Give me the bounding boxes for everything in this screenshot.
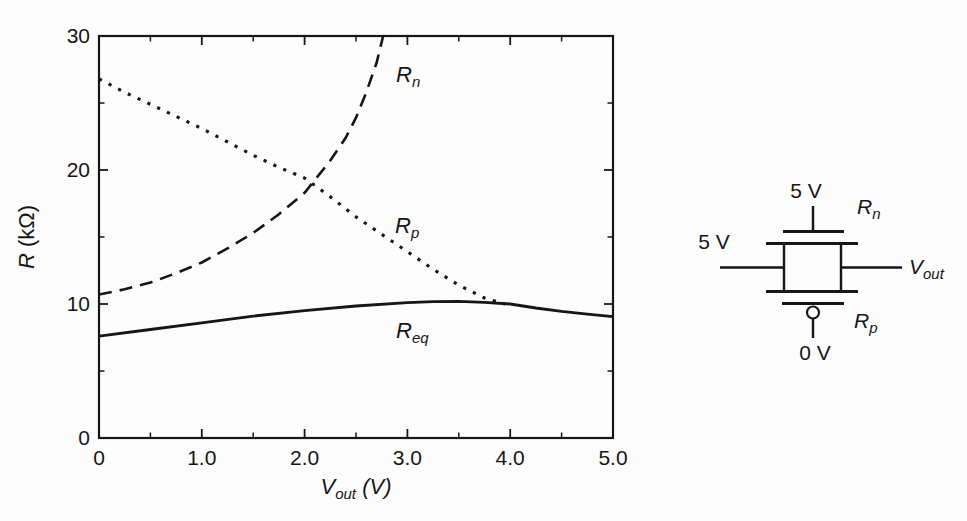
resistance-figure: 01.02.03.04.05.00102030 RnRpReq Vout (V)…: [0, 0, 967, 521]
x-tick-label: 2.0: [290, 446, 319, 469]
rn-curve: [99, 29, 385, 294]
x-tick-label: 4.0: [496, 446, 525, 469]
y-tick-label: 0: [78, 426, 90, 449]
y-tick-label: 30: [67, 24, 90, 47]
axis-ticks: [99, 36, 613, 438]
x-axis-label: Vout (V): [321, 474, 392, 502]
req-curve: [99, 301, 613, 336]
plot-frame: [99, 36, 613, 438]
input-voltage-label: 5 V: [698, 230, 730, 253]
x-tick-label: 3.0: [393, 446, 422, 469]
pmos-gate-bubble: [807, 307, 819, 319]
y-tick-label: 10: [67, 292, 90, 315]
curves: [99, 29, 613, 336]
transmission-gate-circuit: 5 V 5 V 0 V Rn Rp Vout: [698, 179, 944, 364]
figure-canvas: 01.02.03.04.05.00102030 RnRpReq Vout (V)…: [0, 0, 967, 521]
rn-curve-label: Rn: [396, 62, 420, 90]
vout-label: Vout: [909, 255, 945, 282]
y-tick-label: 20: [67, 158, 90, 181]
plot-frame-group: [99, 36, 613, 438]
rn-device-label: Rn: [857, 195, 881, 222]
gate-top-voltage-label: 5 V: [790, 179, 822, 202]
rp-curve-label: Rp: [395, 213, 419, 241]
req-curve-label: Req: [396, 318, 429, 346]
rp-device-label: Rp: [854, 309, 878, 336]
rp-curve: [99, 79, 505, 304]
gate-bottom-voltage-label: 0 V: [799, 341, 831, 364]
y-axis-label: R (kΩ): [14, 205, 39, 269]
x-tick-label: 0: [93, 446, 105, 469]
x-tick-label: 1.0: [187, 446, 216, 469]
axis-tick-labels: 01.02.03.04.05.00102030: [67, 24, 628, 469]
resistance-chart: 01.02.03.04.05.00102030 RnRpReq Vout (V)…: [14, 24, 628, 502]
x-tick-label: 5.0: [598, 446, 627, 469]
